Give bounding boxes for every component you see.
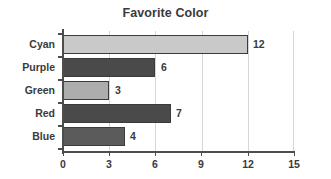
- y-label-green: Green: [25, 84, 55, 96]
- x-tick-6: [155, 152, 156, 156]
- y-label-purple: Purple: [22, 61, 55, 73]
- x-label-6: 6: [140, 158, 170, 170]
- y-label-red: Red: [35, 107, 55, 119]
- bar-value-cyan: 12: [253, 38, 265, 50]
- bar-value-green: 3: [115, 84, 121, 96]
- chart-title: Favorite Color: [0, 6, 331, 20]
- bar-red[interactable]: [63, 104, 171, 123]
- x-tick-0: [63, 152, 64, 156]
- bar-chart: Favorite Color 12 6 3 7 4 Cyan Purple G: [0, 0, 331, 179]
- x-tick-9: [201, 152, 202, 156]
- y-tick-red: [58, 102, 63, 104]
- x-label-9: 9: [186, 158, 216, 170]
- y-label-blue: Blue: [32, 130, 55, 142]
- y-tick-blue: [58, 125, 63, 127]
- bar-cyan[interactable]: [63, 35, 248, 54]
- x-tick-15: [294, 152, 295, 156]
- bar-value-purple: 6: [161, 61, 167, 73]
- gridline-15: [293, 31, 294, 152]
- y-axis-line: [62, 29, 64, 154]
- x-label-15: 15: [279, 158, 309, 170]
- x-label-0: 0: [48, 158, 78, 170]
- bar-green[interactable]: [63, 81, 109, 100]
- x-tick-3: [109, 152, 110, 156]
- bar-purple[interactable]: [63, 58, 155, 77]
- x-axis-line: [62, 151, 295, 153]
- y-tick-end: [58, 148, 63, 150]
- y-tick-green: [58, 79, 63, 81]
- y-label-cyan: Cyan: [29, 38, 55, 50]
- y-tick-purple: [58, 56, 63, 58]
- x-label-3: 3: [94, 158, 124, 170]
- plot-area: 12 6 3 7 4: [63, 31, 294, 152]
- gridline-12: [248, 31, 249, 152]
- x-tick-12: [248, 152, 249, 156]
- y-tick-cyan: [58, 33, 63, 35]
- bar-value-blue: 4: [130, 130, 136, 142]
- bar-blue[interactable]: [63, 127, 125, 146]
- x-label-12: 12: [233, 158, 263, 170]
- bar-value-red: 7: [176, 107, 182, 119]
